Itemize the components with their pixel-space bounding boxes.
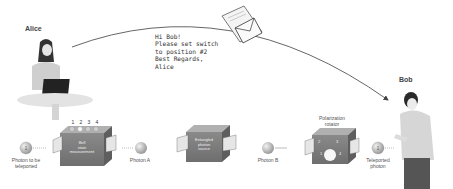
envelope-icon: [222, 6, 262, 43]
photon-b-sphere: [262, 142, 287, 154]
bob-figure: [394, 92, 434, 189]
dial-number: 2: [316, 140, 322, 145]
message-line: Best Regards,: [155, 55, 218, 62]
classical-channel-curve: [72, 27, 388, 100]
source-label: Entangled photon source: [186, 138, 222, 152]
rotator-dial-icon: [324, 149, 336, 161]
photon-a-label: Photon A: [120, 157, 160, 163]
polarization-rotator-box: [305, 128, 359, 164]
svg-text:1: 1: [377, 145, 380, 151]
photon-output-label: Teleported photon: [358, 157, 398, 169]
bob-label: Bob: [399, 76, 413, 83]
photon-input-sphere: 1: [20, 142, 46, 154]
photon-output-sphere: 1: [372, 142, 394, 154]
classical-message: Hi Bob! Please set switch to position #2…: [155, 33, 218, 70]
message-line: Alice: [155, 63, 218, 70]
photon-a-sphere: [122, 142, 147, 154]
rotator-title: Polarization rotator: [308, 115, 356, 127]
message-line: Hi Bob!: [155, 33, 218, 40]
switch-number: 4: [94, 119, 100, 125]
dial-number: 3: [334, 140, 340, 145]
message-line: to position #2: [155, 48, 218, 55]
alice-figure: [17, 39, 93, 120]
photon-input-label: Photon to be teleported: [6, 157, 46, 169]
dial-number: 4: [337, 152, 343, 157]
switch-number: 1: [70, 119, 76, 125]
message-line: Please set switch: [155, 40, 218, 47]
dial-number: 1: [318, 152, 324, 157]
svg-text:1: 1: [25, 145, 28, 151]
photon-b-label: Photon B: [248, 157, 288, 163]
alice-label: Alice: [25, 25, 42, 32]
switch-number: 3: [86, 119, 92, 125]
bsm-label: Bell state measurement: [60, 141, 104, 155]
switch-number: 2: [78, 119, 84, 125]
